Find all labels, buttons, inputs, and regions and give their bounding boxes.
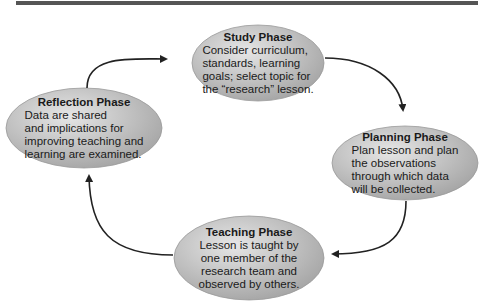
node-line: research team and [198, 265, 299, 278]
node-title: Planning Phase [362, 131, 448, 144]
node-line: improving teaching and [25, 135, 144, 148]
arrow-study-to-planning [325, 58, 403, 110]
node-line: the observations [352, 157, 459, 170]
node-planning: Planning Phase Plan lesson and plan the … [332, 126, 478, 200]
node-title: Teaching Phase [206, 226, 293, 239]
node-line: the “research” lesson. [202, 83, 313, 96]
node-line: will be collected. [352, 183, 459, 196]
arrow-teaching-to-reflection [89, 176, 173, 255]
node-line: one member of the [198, 252, 299, 265]
node-title: Reflection Phase [38, 96, 131, 109]
node-line: goals; select topic for [202, 70, 313, 83]
node-line: standards, learning [202, 57, 313, 70]
node-line: Lesson is taught by [198, 239, 299, 252]
node-title: Study Phase [223, 31, 292, 44]
node-body: Lesson is taught by one member of the re… [198, 239, 299, 291]
node-study: Study Phase Consider curriculum, standar… [192, 25, 324, 101]
node-body: Consider curriculum, standards, learning… [202, 44, 313, 96]
arrow-planning-to-teaching [333, 201, 406, 254]
node-body: Data are shared and implications for imp… [25, 109, 144, 161]
arrow-reflection-to-study [87, 59, 166, 88]
node-line: Data are shared [25, 109, 144, 122]
node-teaching: Teaching Phase Lesson is taught by one m… [174, 218, 324, 298]
node-line: and implications for [25, 122, 144, 135]
node-line: Consider curriculum, [202, 44, 313, 57]
node-reflection: Reflection Phase Data are shared and imp… [6, 90, 162, 166]
node-line: through which data [352, 170, 459, 183]
node-line: observed by others. [198, 278, 299, 291]
node-line: Plan lesson and plan [352, 144, 459, 157]
node-line: learning are examined. [25, 148, 144, 161]
node-body: Plan lesson and plan the observations th… [352, 144, 459, 196]
